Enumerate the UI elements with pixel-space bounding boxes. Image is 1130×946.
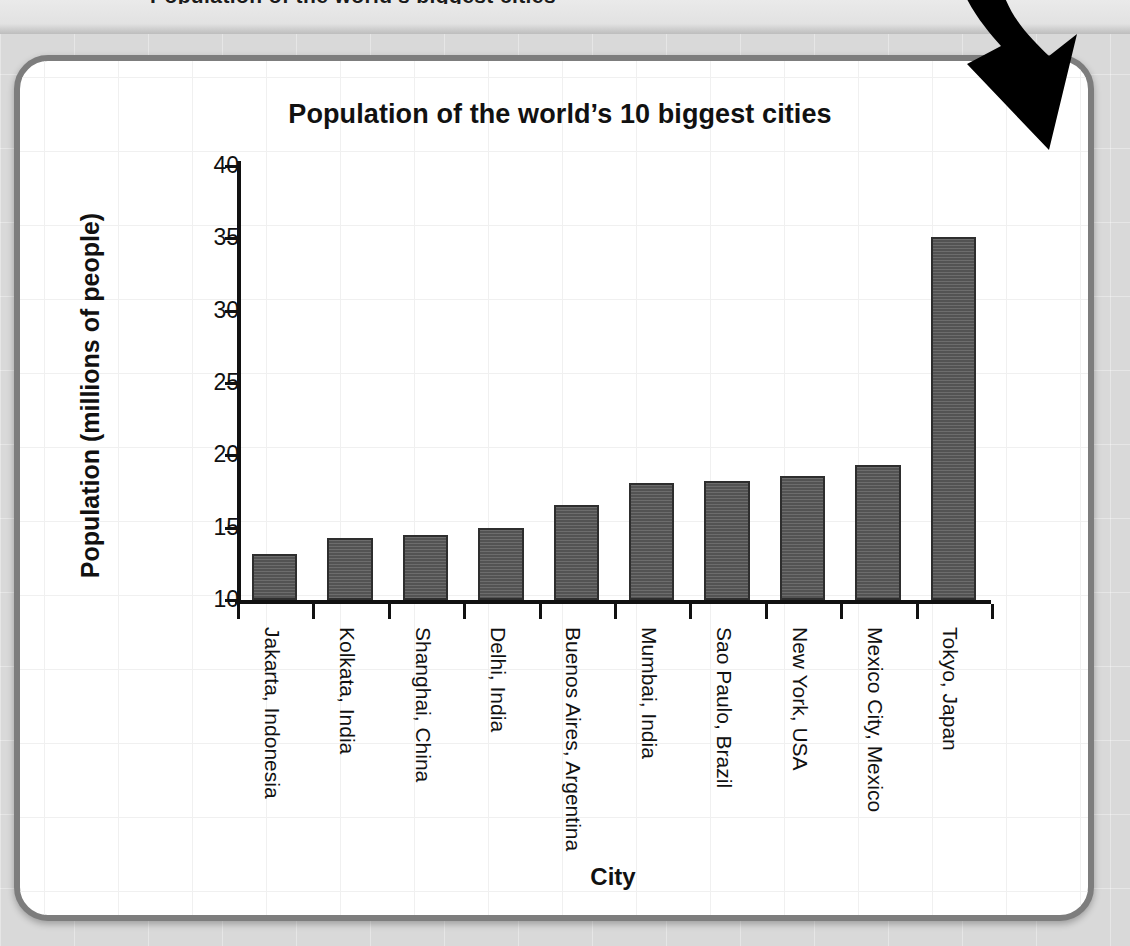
y-tick-label: 35 bbox=[193, 224, 239, 251]
x-tick-mark bbox=[237, 604, 240, 619]
bar bbox=[252, 554, 297, 600]
y-tick-label: 20 bbox=[193, 441, 239, 468]
bar bbox=[327, 538, 372, 600]
plot-area: 10152025303540 Jakarta, IndonesiaKolkata… bbox=[20, 61, 1100, 927]
x-tick-mark bbox=[765, 604, 768, 619]
y-tick-label: 25 bbox=[193, 369, 239, 396]
y-tick-label: 30 bbox=[193, 297, 239, 324]
x-axis-title: City bbox=[235, 863, 991, 891]
page-top-band bbox=[0, 0, 1130, 34]
page-background: Population of the world's biggest cities… bbox=[0, 0, 1130, 946]
x-axis-line bbox=[235, 600, 991, 604]
clipped-caption-text: Population of the world's biggest cities bbox=[150, 0, 970, 4]
x-tick-mark bbox=[463, 604, 466, 619]
x-tick-mark bbox=[614, 604, 617, 619]
x-tick-mark bbox=[539, 604, 542, 619]
y-tick-label: 10 bbox=[193, 586, 239, 613]
x-tick-mark bbox=[689, 604, 692, 619]
bar bbox=[403, 535, 448, 600]
y-tick-label: 40 bbox=[193, 152, 239, 179]
x-tick-mark bbox=[991, 604, 994, 619]
bar bbox=[554, 505, 599, 600]
x-tick-mark bbox=[312, 604, 315, 619]
bar bbox=[780, 476, 825, 600]
x-tick-mark bbox=[840, 604, 843, 619]
x-tick-mark bbox=[388, 604, 391, 619]
bar bbox=[704, 481, 749, 600]
bar bbox=[629, 483, 674, 600]
bar bbox=[478, 528, 523, 600]
y-axis-title: Population (millions of people) bbox=[76, 176, 105, 616]
y-tick-label: 15 bbox=[193, 514, 239, 541]
bar bbox=[855, 465, 900, 600]
x-tick-mark bbox=[916, 604, 919, 619]
bar bbox=[931, 237, 976, 600]
chart-panel: Population of the world’s 10 biggest cit… bbox=[14, 55, 1094, 921]
